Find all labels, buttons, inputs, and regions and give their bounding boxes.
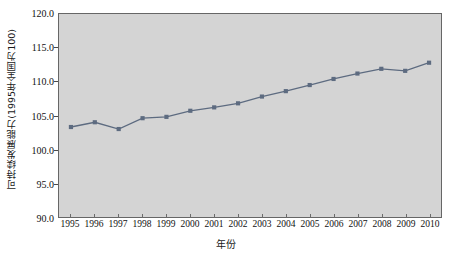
x-axis-tick-label: 1997	[109, 219, 128, 229]
data-point-marker: 2007: 111.2	[355, 71, 359, 75]
x-axis-tick-mark	[94, 214, 95, 218]
data-point-marker: 2002: 106.8	[236, 101, 240, 105]
x-axis-tick-label: 1996	[85, 219, 104, 229]
chart-figure: 可持续发展能力(1995年全国为100) 90.095.0100.0105.01…	[0, 0, 452, 264]
x-axis-tick-mark	[286, 214, 287, 218]
x-axis-tick-label: 1998	[133, 219, 152, 229]
data-point-marker: 1995: 103.3	[69, 125, 73, 129]
x-axis-tick-mark	[382, 214, 383, 218]
x-axis-tick-mark	[430, 214, 431, 218]
data-point-marker: 2005: 109.5	[308, 83, 312, 87]
x-axis-tick-mark	[190, 214, 191, 218]
x-axis-tick-label: 2004	[277, 219, 296, 229]
x-axis-tick-label: 2009	[397, 219, 416, 229]
x-axis-tick-mark	[334, 214, 335, 218]
data-point-marker: 2006: 110.4	[331, 77, 335, 81]
x-axis-tick-label: 2008	[373, 219, 392, 229]
x-axis-tick-mark	[142, 214, 143, 218]
y-axis-tick-label: 120.0	[32, 8, 55, 19]
line-series: 1995: 103.31996: 1041997: 1031998: 104.6…	[59, 14, 441, 217]
x-axis-tick-mark	[310, 214, 311, 218]
data-point-marker: 2000: 105.7	[188, 109, 192, 113]
x-axis-tick-mark	[358, 214, 359, 218]
y-axis-tick-label: 115.0	[32, 42, 54, 53]
x-axis-tick-label: 2000	[181, 219, 200, 229]
data-point-marker: 2009: 111.6	[403, 69, 407, 73]
x-axis-tick-mark	[238, 214, 239, 218]
x-axis-tick-mark	[262, 214, 263, 218]
x-axis-tick-label: 1999	[157, 219, 176, 229]
series-line	[71, 63, 429, 129]
x-axis-tick-label: 2010	[421, 219, 440, 229]
plot-area: 1995: 103.31996: 1041997: 1031998: 104.6…	[58, 13, 442, 218]
y-axis-tick-label: 100.0	[32, 144, 55, 155]
y-axis-title-text: 可持续发展能力(1995年全国为100)	[5, 29, 19, 189]
x-axis-tick-label: 2003	[253, 219, 272, 229]
data-point-marker: 2008: 111.9	[379, 67, 383, 71]
x-axis-tick-label: 2001	[205, 219, 224, 229]
x-axis-tick-mark	[118, 214, 119, 218]
y-axis-tick-label: 105.0	[32, 110, 55, 121]
data-point-marker: 1998: 104.6	[140, 116, 144, 120]
y-axis-tick-label: 110.0	[32, 76, 54, 87]
y-axis-title: 可持续发展能力(1995年全国为100)	[2, 0, 22, 218]
data-point-marker: 1997: 103	[117, 127, 121, 131]
x-axis-tick-mark	[70, 214, 71, 218]
x-axis-tick-label: 2005	[301, 219, 320, 229]
data-point-marker: 2001: 106.2	[212, 105, 216, 109]
data-point-marker: 1996: 104	[93, 120, 97, 124]
data-point-marker: 2010: 112.8	[427, 61, 431, 65]
data-point-marker: 2004: 108.6	[284, 89, 288, 93]
x-axis-tick-mark	[166, 214, 167, 218]
y-axis-tick-labels: 90.095.0100.0105.0110.0115.0120.0	[22, 0, 56, 232]
x-axis-tick-labels: 1995199619971998199920002001200220032004…	[58, 219, 442, 235]
x-axis-tick-label: 2002	[229, 219, 248, 229]
x-axis-tick-label: 2006	[325, 219, 344, 229]
x-axis-tick-mark	[214, 214, 215, 218]
data-point-marker: 1999: 104.8	[164, 115, 168, 119]
x-axis-title: 年份	[0, 236, 452, 251]
x-axis-tick-label: 2007	[349, 219, 368, 229]
x-axis-tick-mark	[406, 214, 407, 218]
data-point-marker: 2003: 107.8	[260, 94, 264, 98]
x-axis-tick-marks	[58, 212, 442, 218]
x-axis-tick-label: 1995	[61, 219, 80, 229]
